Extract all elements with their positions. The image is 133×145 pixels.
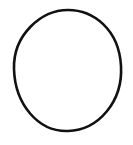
canvas-background	[0, 0, 133, 145]
image-canvas	[0, 0, 133, 145]
circle-figure	[0, 0, 133, 145]
